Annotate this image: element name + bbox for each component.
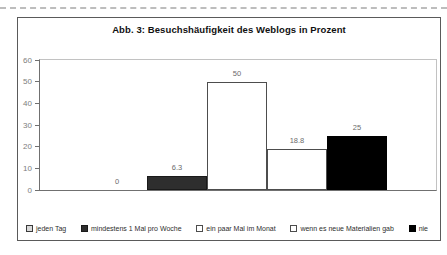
page-top-rule [0,7,447,9]
chart-title: Abb. 3: Besuchshäufigkeit des Weblogs in… [18,24,440,35]
chart-frame: Abb. 3: Besuchshäufigkeit des Weblogs in… [17,17,441,241]
legend-marker [81,225,88,232]
y-axis-tick [35,60,40,61]
y-axis-tick-label: 60 [12,56,32,65]
legend-label: wenn es neue Materialien gab [300,225,393,232]
bar-value-label: 18.8 [267,136,327,145]
legend-marker [409,225,416,232]
y-axis-tick-label: 0 [12,186,32,195]
y-axis-tick-label: 10 [12,164,32,173]
legend-marker [26,225,33,232]
y-axis-tick [35,125,40,126]
y-axis-tick [35,190,40,191]
bar-value-label: 0 [87,177,147,186]
legend: jeden Tagmindestens 1 Mal pro Wocheein p… [26,221,428,235]
legend-item: nie [409,225,428,232]
y-axis-tick-label: 40 [12,99,32,108]
legend-item: wenn es neue Materialien gab [290,225,393,232]
y-axis-tick [35,146,40,147]
y-axis-tick [35,103,40,104]
legend-label: jeden Tag [36,225,66,232]
legend-label: mindestens 1 Mal pro Woche [91,225,182,232]
bar-value-label: 6.3 [147,163,207,172]
bar-2 [147,176,207,190]
y-axis-tick-label: 30 [12,121,32,130]
y-axis-tick [35,81,40,82]
bar-4 [267,149,327,190]
legend-item: mindestens 1 Mal pro Woche [81,225,182,232]
y-axis-tick [35,168,40,169]
legend-marker [290,225,297,232]
legend-marker [196,225,203,232]
plot-area: 010203040506006.35018.825 [39,59,437,191]
legend-label: ein paar Mal im Monat [206,225,275,232]
bar-value-label: 25 [327,123,387,132]
legend-item: ein paar Mal im Monat [196,225,275,232]
legend-item: jeden Tag [26,225,66,232]
bar-value-label: 50 [207,69,267,78]
y-axis-tick-label: 50 [12,77,32,86]
y-axis-tick-label: 20 [12,142,32,151]
legend-label: nie [419,225,428,232]
bar-5 [327,136,387,190]
scanned-document-page: { "chart": { "title": "Abb. 3: Besuchshä… [0,0,447,255]
bar-3 [207,82,267,190]
